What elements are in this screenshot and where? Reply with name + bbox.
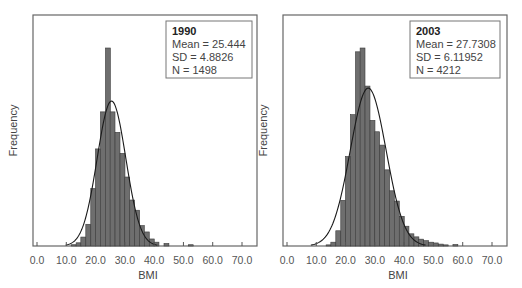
histogram-bar bbox=[105, 48, 110, 246]
x-axis-title: BMI bbox=[138, 269, 158, 281]
histogram-bar bbox=[443, 245, 448, 246]
histogram-bar bbox=[110, 112, 115, 246]
histogram-bar bbox=[188, 245, 193, 246]
x-tick-label: 60.0 bbox=[202, 254, 223, 266]
legend-sd: SD = 4.8826 bbox=[172, 51, 233, 63]
x-tick-label: 50.0 bbox=[423, 254, 444, 266]
y-axis-title: Frequency bbox=[257, 104, 269, 156]
histogram-bar bbox=[341, 200, 346, 246]
histogram-bar bbox=[164, 243, 169, 246]
histogram-bar bbox=[370, 120, 375, 246]
x-tick-label: 40.0 bbox=[144, 254, 165, 266]
x-tick-label: 0.0 bbox=[280, 254, 295, 266]
x-tick-label: 0.0 bbox=[30, 254, 45, 266]
legend-title: 2003 bbox=[416, 25, 440, 37]
histogram-bar bbox=[71, 245, 76, 246]
x-tick-label: 30.0 bbox=[115, 254, 136, 266]
histogram-bar bbox=[125, 177, 130, 246]
histogram-bar bbox=[429, 242, 434, 246]
histogram-bar bbox=[375, 132, 380, 246]
histogram-bar bbox=[453, 244, 458, 246]
histogram-bar bbox=[130, 200, 135, 246]
histogram-bar bbox=[139, 226, 144, 246]
legend-mean: Mean = 25.444 bbox=[172, 38, 246, 50]
x-tick-label: 10.0 bbox=[56, 254, 77, 266]
histogram-bar bbox=[399, 216, 404, 246]
histogram-bar bbox=[331, 242, 336, 246]
legend-box: 1990 Mean = 25.444 SD = 4.8826 N = 1498 bbox=[166, 21, 252, 78]
histogram-bar bbox=[91, 189, 96, 246]
legend-n: N = 1498 bbox=[172, 64, 217, 76]
histogram-bar bbox=[433, 243, 438, 246]
x-axis-title: BMI bbox=[388, 269, 408, 281]
x-tick-label: 20.0 bbox=[85, 254, 106, 266]
figure-canvas: 0.010.020.030.040.050.060.070.0 BMI Freq… bbox=[0, 0, 522, 288]
x-tick-label: 20.0 bbox=[335, 254, 356, 266]
y-axis-title: Frequency bbox=[7, 104, 19, 156]
x-tick-label: 30.0 bbox=[365, 254, 386, 266]
histogram-bar bbox=[115, 132, 120, 246]
legend-sd: SD = 6.11952 bbox=[416, 51, 483, 63]
legend-n: N = 4212 bbox=[416, 64, 461, 76]
histogram-bar bbox=[81, 237, 86, 246]
legend-title: 1990 bbox=[172, 25, 196, 37]
histogram-bar bbox=[86, 224, 91, 246]
histogram-bar bbox=[380, 145, 385, 246]
histogram-bar bbox=[438, 244, 443, 246]
legend-mean: Mean = 27.7308 bbox=[416, 38, 496, 50]
x-tick-label: 50.0 bbox=[173, 254, 194, 266]
x-tick-label: 60.0 bbox=[452, 254, 473, 266]
histogram-bar bbox=[326, 245, 331, 246]
histogram-panel-1990: 0.010.020.030.040.050.060.070.0 BMI Freq… bbox=[7, 15, 257, 281]
histogram-bar bbox=[385, 170, 390, 246]
histogram-bar bbox=[365, 86, 370, 246]
histogram-figure: 0.010.020.030.040.050.060.070.0 BMI Freq… bbox=[0, 0, 522, 288]
x-tick-label: 70.0 bbox=[232, 254, 253, 266]
legend-box: 2003 Mean = 27.7308 SD = 6.11952 N = 421… bbox=[410, 21, 500, 78]
histogram-panel-2003: 0.010.020.030.040.050.060.070.0 BMI Freq… bbox=[257, 15, 507, 281]
histogram-bar bbox=[389, 191, 394, 246]
x-axis-tick-labels: 0.010.020.030.040.050.060.070.0 bbox=[30, 254, 253, 266]
histogram-bar bbox=[360, 48, 365, 246]
x-tick-label: 10.0 bbox=[306, 254, 327, 266]
x-axis-tick-labels: 0.010.020.030.040.050.060.070.0 bbox=[280, 254, 503, 266]
histogram-bar bbox=[120, 153, 125, 246]
histogram-bar bbox=[76, 243, 81, 246]
x-tick-label: 40.0 bbox=[394, 254, 415, 266]
x-tick-label: 70.0 bbox=[482, 254, 503, 266]
histogram-bar bbox=[355, 52, 360, 246]
histogram-bar bbox=[336, 231, 341, 246]
